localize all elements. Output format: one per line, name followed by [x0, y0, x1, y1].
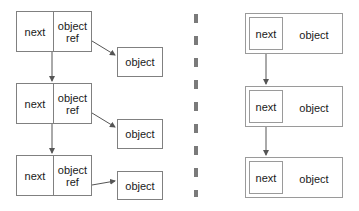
left-object-2-label: object — [125, 128, 154, 140]
right-node-1-next-label: next — [256, 28, 277, 40]
left-node-3-next-label: next — [25, 170, 46, 182]
right-node-2-next-label: next — [256, 101, 277, 113]
arrow-left-ref-2-to-object-2 — [92, 113, 115, 127]
right-node-1-object-label: object — [284, 14, 344, 55]
left-node-3-next-cell: next — [17, 156, 54, 195]
left-node-3: next object ref — [16, 155, 92, 196]
left-object-3: object — [117, 171, 163, 200]
right-node-3-next-label: next — [256, 172, 277, 184]
left-node-1-ref-cell: object ref — [54, 12, 91, 51]
left-node-2-next-cell: next — [17, 84, 54, 123]
right-node-3-object-label: object — [284, 158, 344, 199]
arrow-left-ref-1-to-object-1 — [92, 41, 115, 55]
left-node-1-ref-label: object ref — [58, 20, 87, 44]
diagram-canvas: next object ref next object ref next obj… — [0, 0, 359, 211]
left-node-3-ref-label: object ref — [58, 164, 87, 188]
left-node-1: next object ref — [16, 11, 92, 52]
left-object-1-label: object — [125, 56, 154, 68]
left-node-2-ref-label: object ref — [58, 92, 87, 116]
left-node-1-next-label: next — [25, 26, 46, 38]
right-node-2-next-box: next — [249, 90, 283, 123]
left-node-2-ref-cell: object ref — [54, 84, 91, 123]
left-object-3-label: object — [125, 180, 154, 192]
arrow-left-ref-3-to-object-3 — [92, 181, 115, 185]
left-node-2: next object ref — [16, 83, 92, 124]
right-node-3-next-box: next — [249, 161, 283, 194]
right-node-1-next-box: next — [249, 17, 283, 50]
left-node-2-next-label: next — [25, 98, 46, 110]
right-node-2-object-label: object — [284, 87, 344, 128]
left-node-3-ref-cell: object ref — [54, 156, 91, 195]
left-node-1-next-cell: next — [17, 12, 54, 51]
left-object-1: object — [117, 47, 163, 77]
left-object-2: object — [117, 119, 163, 149]
